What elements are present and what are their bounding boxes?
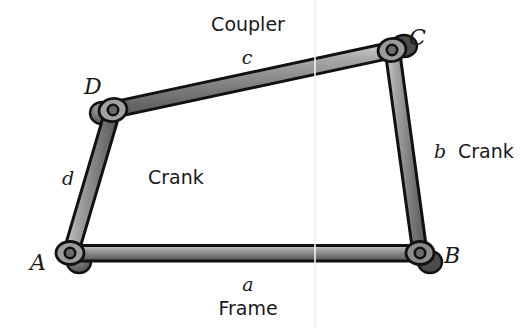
link-length-label-d: d <box>62 169 74 188</box>
link-c-coupler <box>112 42 394 117</box>
link-length-label-b: b <box>434 142 446 161</box>
link-a-frame <box>70 246 420 262</box>
joint-label-c: C <box>409 27 426 49</box>
link-length-label-a: a <box>242 275 253 294</box>
joint-label-d: D <box>84 76 102 98</box>
link-role-label-frame: Frame <box>218 299 277 318</box>
link-role-label-crank-right: Crank <box>458 142 514 161</box>
joint-label-b: B <box>444 245 460 267</box>
link-end-caps <box>56 36 434 265</box>
joint-label-a: A <box>30 252 46 274</box>
link-role-label-crank-left: Crank <box>148 168 204 187</box>
link-role-label-coupler: Coupler <box>211 15 285 34</box>
linkage-drawing <box>0 0 528 328</box>
four-bar-linkage-figure: A B C D a Frame b Crank Coupler c d Cran… <box>0 0 528 328</box>
link-b-crank-right <box>385 49 427 254</box>
link-length-label-c: c <box>242 48 253 67</box>
